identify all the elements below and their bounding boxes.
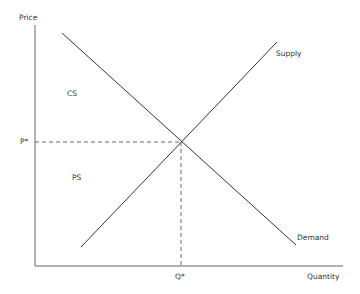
- y-axis-label: Price: [19, 13, 37, 22]
- consumer-surplus-label: CS: [67, 89, 77, 98]
- demand-curve: [62, 33, 296, 245]
- supply-label: Supply: [276, 49, 302, 58]
- equilibrium-quantity-label: Q*: [175, 272, 185, 281]
- producer-surplus-label: PS: [72, 173, 81, 182]
- demand-label: Demand: [297, 233, 329, 242]
- equilibrium-price-label: P*: [20, 137, 28, 146]
- supply-demand-diagram: [0, 0, 360, 294]
- x-axis-label: Quantity: [307, 272, 339, 281]
- supply-curve: [81, 42, 277, 247]
